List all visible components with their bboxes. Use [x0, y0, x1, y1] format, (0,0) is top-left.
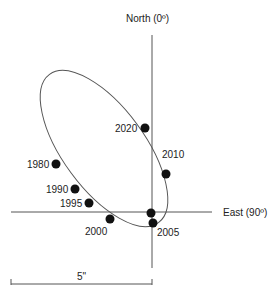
orbit-point-2000: [106, 215, 115, 224]
scale-bar-label: 5": [77, 271, 87, 282]
orbit-point-1995: [85, 199, 94, 208]
orbit-point-1990: [71, 185, 80, 194]
scale-bar: 5": [11, 271, 152, 285]
north-axis-label: North (0º): [126, 13, 169, 24]
label-1980: 1980: [27, 159, 50, 170]
label-1995: 1995: [60, 198, 83, 209]
binary-orbit-diagram: North (0º) East (90º) 1980 1990 1995 200…: [0, 0, 274, 297]
orbit-point-2020: [141, 124, 150, 133]
east-axis-label: East (90º): [223, 207, 267, 218]
orbit-point-2010: [162, 170, 171, 179]
label-1990: 1990: [46, 184, 69, 195]
label-2005: 2005: [157, 227, 180, 238]
primary-star-point: [147, 209, 156, 218]
orbit-point-1980: [52, 160, 61, 169]
label-2000: 2000: [85, 226, 108, 237]
label-2010: 2010: [162, 149, 185, 160]
label-2020: 2020: [115, 123, 138, 134]
